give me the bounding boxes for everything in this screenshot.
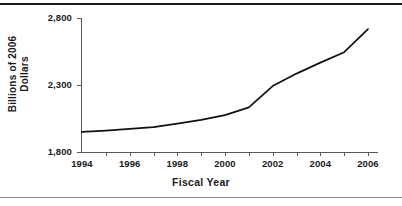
series-plot bbox=[0, 0, 402, 206]
line-series-path bbox=[82, 29, 368, 132]
chart-figure: Billions of 2006 Dollars Fiscal Year 1,8… bbox=[0, 0, 402, 206]
